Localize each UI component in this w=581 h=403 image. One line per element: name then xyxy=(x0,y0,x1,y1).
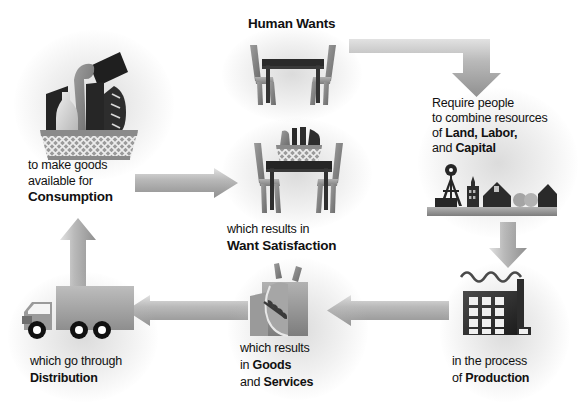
arrow-production-to-goods xyxy=(327,295,449,327)
caption-require-line-3: of Land, Labor, xyxy=(432,126,517,141)
caption-consumption-line-3-bold: Consumption xyxy=(28,189,113,204)
caption-require-line-3-plain: of xyxy=(432,126,445,140)
economic-cycle-diagram: Human Wants Require people to combine re… xyxy=(0,0,581,403)
arrow-resources-to-production xyxy=(487,222,529,270)
caption-consumption-line-2: available for xyxy=(28,174,93,189)
caption-consumption-line-1: to make goods xyxy=(28,158,107,173)
arrow-wants-to-resources xyxy=(349,36,524,100)
caption-require-line-4: and Capital xyxy=(432,141,496,156)
caption-production-line-1: in the process xyxy=(452,354,527,369)
caption-goods-line-3-bold: Services xyxy=(264,375,314,389)
caption-distribution-line-2-bold: Distribution xyxy=(30,371,98,385)
grocery-basket-icon xyxy=(38,38,142,160)
factory-icon xyxy=(455,267,533,337)
caption-goods-line-3-plain: and xyxy=(240,375,264,389)
caption-require-line-2: to combine resources xyxy=(432,111,548,126)
table-with-basket-icon xyxy=(240,125,356,217)
arrow-goods-to-distribution xyxy=(126,295,248,327)
caption-goods-line-3: and Services xyxy=(240,375,313,390)
delivery-truck-icon xyxy=(18,282,134,344)
caption-satisfaction-line-1: which results in xyxy=(227,222,309,237)
page-title: Human Wants xyxy=(248,16,335,31)
caption-production-line-2-plain: of xyxy=(452,371,465,385)
caption-production-line-2-bold: Production xyxy=(465,371,529,385)
grocery-bag-icon xyxy=(246,262,318,338)
caption-goods-line-1: which results xyxy=(240,341,310,356)
caption-require-line-3-bold: Land, Labor, xyxy=(445,126,517,140)
caption-require-line-4-plain: and xyxy=(432,141,456,155)
caption-satisfaction-line-2-bold: Want Satisfaction xyxy=(227,238,336,253)
caption-goods-line-2-plain: in xyxy=(240,358,253,372)
table-and-chairs-icon xyxy=(238,37,348,107)
farm-landscape-icon xyxy=(427,162,557,224)
caption-distribution-line-1: which go through xyxy=(30,354,122,369)
caption-require-line-4-bold: Capital xyxy=(456,141,496,155)
caption-require-line-1: Require people xyxy=(432,96,514,111)
caption-goods-line-2-bold: Goods xyxy=(253,358,292,372)
caption-goods-line-2: in Goods xyxy=(240,358,291,373)
caption-satisfaction-line-2: Want Satisfaction xyxy=(227,239,336,254)
caption-production-line-2: of Production xyxy=(452,371,529,386)
caption-distribution-line-2: Distribution xyxy=(30,371,98,386)
arrow-consumption-to-satisfaction xyxy=(135,168,238,198)
caption-consumption-line-3: Consumption xyxy=(28,190,113,205)
